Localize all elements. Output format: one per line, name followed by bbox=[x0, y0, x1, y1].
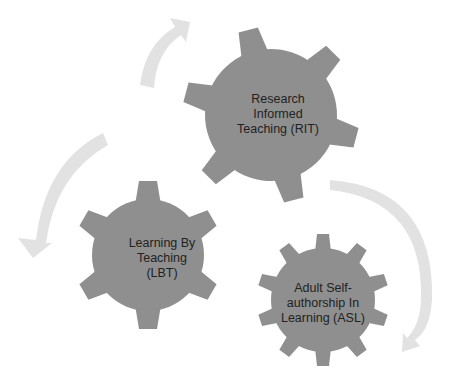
label-line: Learning By bbox=[129, 236, 196, 251]
diagram-canvas bbox=[0, 0, 458, 380]
label-line: Teaching (RIT) bbox=[237, 122, 319, 137]
gear-label-rit: Research Informed Teaching (RIT) bbox=[237, 92, 319, 137]
label-line: Research bbox=[237, 92, 319, 107]
arrow-lbt-to-rit bbox=[140, 18, 190, 88]
label-line: Learning (ASL) bbox=[281, 311, 365, 326]
gear-label-asl: Adult Self- authorship In Learning (ASL) bbox=[281, 281, 365, 326]
label-line: Informed bbox=[237, 107, 319, 122]
gear-label-lbt: Learning By Teaching (LBT) bbox=[129, 236, 196, 281]
label-line: (LBT) bbox=[129, 266, 196, 281]
label-line: Teaching bbox=[129, 251, 196, 266]
label-line: Adult Self- bbox=[281, 281, 365, 296]
label-line: authorship In bbox=[281, 296, 365, 311]
gear-cycle-diagram: Research Informed Teaching (RIT) Learnin… bbox=[0, 0, 458, 380]
